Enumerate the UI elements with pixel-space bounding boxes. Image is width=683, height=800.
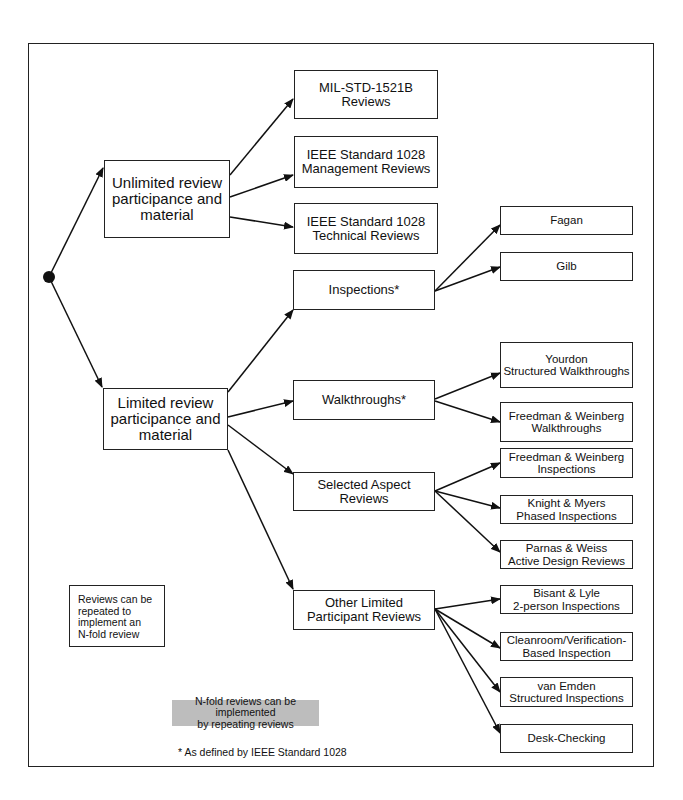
node-ieee-technical: IEEE Standard 1028 Technical Reviews bbox=[294, 203, 438, 254]
node-walkthroughs: Walkthroughs* bbox=[293, 380, 435, 420]
leaf-van-emden: van Emden Structured Inspections bbox=[500, 677, 633, 707]
node-selected-aspect: Selected Aspect Reviews bbox=[293, 472, 435, 511]
leaf-fw-walkthroughs: Freedman & Weinberg Walkthroughs bbox=[500, 402, 633, 442]
node-mil-std: MIL-STD-1521B Reviews bbox=[294, 70, 438, 119]
category-unlimited: Unlimited review participance and materi… bbox=[104, 160, 230, 238]
shaded-note: N-fold reviews can be implemented by rep… bbox=[172, 700, 319, 726]
leaf-fagan: Fagan bbox=[500, 206, 633, 235]
node-ieee-management: IEEE Standard 1028 Management Reviews bbox=[294, 136, 438, 188]
leaf-knight-myers: Knight & Myers Phased Inspections bbox=[500, 495, 633, 524]
leaf-parnas-weiss: Parnas & Weiss Active Design Reviews bbox=[500, 540, 633, 569]
leaf-yourdon: Yourdon Structured Walkthroughs bbox=[500, 342, 633, 388]
node-other-limited: Other Limited Participant Reviews bbox=[293, 590, 435, 630]
node-inspections: Inspections* bbox=[293, 270, 435, 310]
leaf-cleanroom: Cleanroom/Verification- Based Inspection bbox=[500, 632, 633, 661]
footnote: * As defined by IEEE Standard 1028 bbox=[178, 746, 347, 758]
leaf-fw-inspections: Freedman & Weinberg Inspections bbox=[500, 448, 633, 478]
leaf-bisant-lyle: Bisant & Lyle 2-person Inspections bbox=[500, 585, 633, 614]
leaf-gilb: Gilb bbox=[500, 252, 633, 281]
leaf-desk-checking: Desk-Checking bbox=[500, 724, 633, 753]
root-node-dot bbox=[43, 271, 55, 283]
category-limited: Limited review participance and material bbox=[103, 388, 228, 450]
n-fold-note-box: Reviews can be repeated to implement an … bbox=[69, 585, 165, 647]
